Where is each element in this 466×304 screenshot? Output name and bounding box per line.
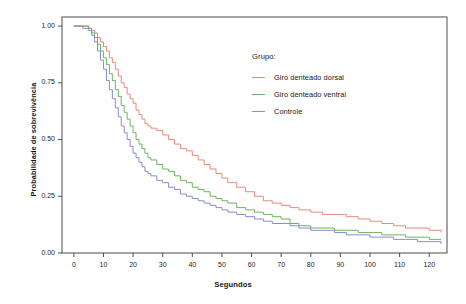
y-tick-label: 0.50 (21, 135, 55, 142)
x-tick-label: 50 (207, 261, 237, 268)
x-tick-label: 120 (414, 261, 444, 268)
x-tick-label: 10 (88, 261, 118, 268)
x-tick-label: 0 (59, 261, 89, 268)
legend-item-2[interactable]: Controle (252, 104, 346, 118)
x-tick-label: 40 (177, 261, 207, 268)
x-tick-label: 20 (118, 261, 148, 268)
x-tick-label: 70 (266, 261, 296, 268)
legend-items: Giro denteado dorsalGiro denteado ventra… (252, 70, 346, 118)
chart-root: Probabilidade de sobrevivência Segundos … (0, 0, 466, 304)
y-tick-label: 1.00 (21, 22, 55, 29)
x-tick-label: 60 (237, 261, 267, 268)
x-tick-label: 110 (385, 261, 415, 268)
y-tick-label: 0.25 (21, 192, 55, 199)
legend-swatch-icon (252, 77, 265, 78)
legend-item-1[interactable]: Giro denteado ventral (252, 87, 346, 101)
x-tick-label: 30 (148, 261, 178, 268)
legend-swatch-icon (252, 94, 265, 95)
legend-item-0[interactable]: Giro denteado dorsal (252, 70, 346, 84)
x-tick-label: 80 (296, 261, 326, 268)
legend: Grupo: Giro denteado dorsalGiro denteado… (252, 52, 346, 121)
legend-swatch-icon (252, 111, 265, 112)
x-tick-label: 90 (325, 261, 355, 268)
y-tick-label: 0.00 (21, 249, 55, 256)
legend-item-label: Giro denteado ventral (274, 90, 346, 99)
legend-item-label: Controle (274, 107, 302, 116)
y-tick-label: 0.75 (21, 78, 55, 85)
legend-item-label: Giro denteado dorsal (274, 73, 344, 82)
x-tick-label: 100 (355, 261, 385, 268)
plot-area (0, 0, 466, 304)
legend-title: Grupo: (252, 52, 346, 61)
